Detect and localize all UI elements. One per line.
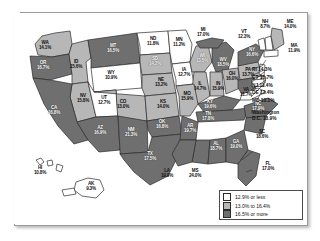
state-NE[interactable] [142,73,176,96]
callout-dc-line2: D.C. 18.9% [252,116,279,122]
callout-CT: CT 10.7% [252,74,274,82]
state-AK[interactable] [74,178,104,198]
legend-label-mid: 13.0% to 16.4% [235,203,270,209]
callout-RI: RI 14.3% [252,66,274,74]
callout-list: RI 14.3% CT 10.7% NJ 11.4% DE 12.4% MD 1… [252,66,274,105]
state-MN[interactable] [168,30,192,64]
legend-row-low: 12.9% or less [223,193,299,202]
state-ME[interactable] [271,28,284,50]
legend-row-high: 16.5% or more [223,210,299,219]
legend-swatch-mid [223,202,231,210]
state-IN[interactable] [210,72,224,96]
state-AR[interactable] [180,116,198,140]
state-MA[interactable] [264,50,278,57]
state-HI2[interactable] [47,160,53,166]
legend-row-mid: 13.0% to 16.4% [223,202,299,211]
state-SD[interactable] [140,53,172,75]
state-MO[interactable] [176,84,198,116]
state-AK-tail[interactable] [62,188,76,196]
state-WY[interactable] [91,63,142,92]
legend-label-high: 16.5% or more [235,211,268,217]
state-HI[interactable] [36,158,44,165]
state-MT[interactable] [88,33,140,68]
callout-DE: DE 12.4% [252,89,274,97]
state-WI[interactable] [190,45,212,72]
callout-MD: MD 10.1% [252,97,274,105]
state-AL[interactable] [208,138,226,164]
legend-label-low: 12.9% or less [235,194,265,200]
legend-swatch-low [223,193,231,201]
state-OH[interactable] [222,68,240,94]
map-page: WA14.1% OR16.7% ID15.6% MT16.5% ND11.8% … [0,0,320,241]
state-OR[interactable] [30,54,72,80]
state-ND[interactable] [137,31,170,55]
map-legend: 12.9% or less 13.0% to 16.4% 16.5% or mo… [219,190,303,220]
state-WA[interactable] [35,31,72,57]
state-HI3[interactable] [56,164,63,172]
callout-NJ: NJ 11.4% [252,82,274,90]
state-NM[interactable] [118,116,148,154]
legend-swatch-high [223,210,231,218]
callout-dc: Washington D.C. 18.9% [252,110,279,122]
state-ID[interactable] [69,40,91,84]
